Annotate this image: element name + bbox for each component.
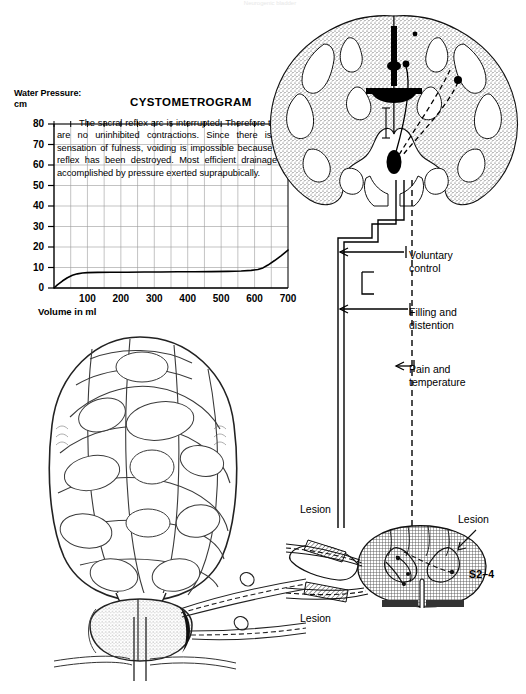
spinal-cord-cross-section-figure: [286, 512, 526, 622]
prostate: [89, 599, 193, 661]
chart-x-tick-label: 700: [280, 293, 297, 304]
spinal-segment-label: S2–4: [469, 568, 494, 580]
chart-x-tick-label: 100: [79, 293, 96, 304]
chart-x-tick-label: 400: [179, 293, 196, 304]
chart-x-tick-label: 600: [246, 293, 263, 304]
cord-body: [358, 526, 486, 608]
chart-annotation-text: The sacral reflex arc is interrupted. Th…: [57, 117, 289, 179]
motor-tract-solid-line: [338, 180, 404, 528]
chart-x-axis-title: Volume in ml: [38, 306, 96, 317]
tract-waypoint-marks: [362, 272, 374, 294]
faint-page-header: Neurogenic bladder: [190, 0, 350, 9]
lesion-label-right: Lesion: [458, 513, 489, 525]
bladder-and-prostate-figure: [30, 325, 310, 685]
voluntary-control-arrow: [340, 246, 406, 258]
bladder-svg: [30, 325, 310, 685]
chart-x-tick-label: 500: [213, 293, 230, 304]
chart-x-tick-label: 300: [146, 293, 163, 304]
tract-label-pain-and-temperature: Pain and temperature: [409, 363, 466, 389]
tract-label-voluntary-control: Voluntary control: [409, 249, 453, 275]
cord-svg: [286, 512, 526, 622]
filling-distention-arrow: [340, 303, 410, 315]
tract-label-filling-and-distention: Filling and distention: [409, 306, 457, 332]
chart-x-tick-label: 200: [113, 293, 130, 304]
page-root: Neurogenic bladder Water Pressure:cm CYS…: [0, 0, 526, 694]
